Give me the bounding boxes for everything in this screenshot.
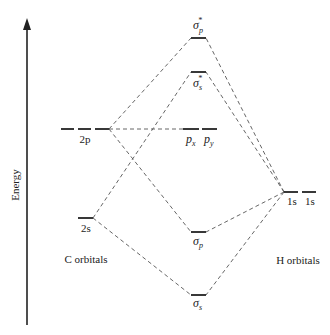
- mo-diagram: Energy 2p 2s: [0, 0, 330, 335]
- h-orbitals-label: H orbitals: [276, 254, 320, 266]
- sigma-s-level: σs: [191, 295, 206, 312]
- sigma-p-star-label: σp*: [193, 16, 203, 35]
- nonbonding-levels: px py: [183, 129, 217, 148]
- connection-2p-sigma-p-star: [109, 38, 191, 129]
- h-1s-levels: 1s 1s: [284, 192, 316, 207]
- py-label: py: [203, 132, 214, 148]
- sigma-p-level: σp: [191, 232, 206, 250]
- connection-2p-sigma-p: [109, 129, 191, 232]
- c-orbitals-label: C orbitals: [64, 253, 107, 265]
- connection-1s-sigma-s: [206, 192, 284, 295]
- sigma-s-star-level: σs*: [191, 72, 206, 92]
- connection-1s-sigma-p-star: [206, 38, 284, 192]
- connection-1s-sigma-p: [206, 192, 284, 232]
- connection-2s-sigma-s-star: [93, 72, 191, 218]
- h-1s-label: 1s: [305, 195, 315, 207]
- arrow-up-icon: [23, 18, 31, 30]
- sigma-p-label: σp: [193, 234, 203, 250]
- sigma-s-star-label: σs*: [193, 74, 202, 92]
- c-2s-level: 2s: [78, 218, 93, 234]
- energy-axis: Energy: [9, 18, 31, 325]
- c-2p-levels: 2p: [61, 129, 109, 145]
- connection-2s-sigma-s: [93, 218, 191, 295]
- c-2p-label: 2p: [80, 133, 92, 145]
- sigma-s-label: σs: [193, 296, 202, 312]
- connection-1s-sigma-s-star: [206, 72, 284, 192]
- sigma-p-star-level: σp*: [191, 16, 206, 38]
- c-2s-label: 2s: [81, 222, 91, 234]
- connection-lines: [93, 38, 284, 295]
- energy-axis-label: Energy: [9, 169, 21, 201]
- px-label: px: [185, 132, 196, 148]
- h-1s-label: 1s: [287, 195, 297, 207]
